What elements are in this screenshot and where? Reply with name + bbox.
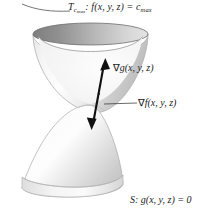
- gradient-f-text: f(x, y, z): [145, 97, 177, 108]
- nabla-icon-f: ∇: [138, 97, 145, 108]
- gradient-g-label: ∇g(x, y, z): [113, 63, 154, 73]
- level-surface-label: Tcmax: f(x, y, z) = cmax: [68, 2, 152, 14]
- arrow-midpoint: [98, 93, 100, 95]
- level-surface-relation-subscript: max: [141, 6, 152, 13]
- figure-canvas: [0, 0, 212, 216]
- level-surface-relation: : f(x, y, z) = c: [85, 1, 140, 12]
- gradient-f-label: ∇f(x, y, z): [138, 98, 176, 108]
- nabla-icon-g: ∇: [113, 62, 120, 73]
- lagrange-multiplier-figure: Tcmax: f(x, y, z) = cmax ∇g(x, y, z) ∇f(…: [0, 0, 212, 216]
- constraint-surface-label: S: g(x, y, z) = 0: [130, 195, 191, 205]
- lower-constraint-surface: [22, 105, 123, 197]
- gradient-g-text: g(x, y, z): [120, 62, 154, 73]
- paraboloid-rim: [33, 23, 148, 45]
- leader-line-top: [22, 4, 70, 11]
